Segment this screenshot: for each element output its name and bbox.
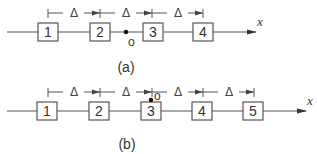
caption-b: (b) xyxy=(118,136,135,152)
element-number: 1 xyxy=(44,24,52,40)
element-box: 4 xyxy=(193,23,213,41)
spacing-label: Δ xyxy=(174,6,183,20)
element-number: 3 xyxy=(149,24,157,40)
spacing-label: Δ xyxy=(70,85,79,99)
element-number: 2 xyxy=(96,24,104,40)
spacing-label: Δ xyxy=(70,6,79,20)
origin-dot xyxy=(149,98,154,103)
caption-a: (a) xyxy=(117,59,134,75)
element-box: 5 xyxy=(243,102,263,120)
element-box: 1 xyxy=(38,23,58,41)
spacing-label: Δ xyxy=(122,85,131,99)
element-number: 2 xyxy=(95,103,103,119)
element-box: 3 xyxy=(143,23,163,41)
diagram-b: Δ Δ Δ Δ x 1 2 3 4 5 o (b) xyxy=(7,85,313,152)
element-number: 4 xyxy=(198,103,206,119)
spacing-label: Δ xyxy=(225,85,234,99)
element-number: 1 xyxy=(43,103,51,119)
spacing-dimension-a: Δ Δ Δ xyxy=(48,6,203,20)
element-box: 1 xyxy=(37,102,57,120)
element-box: 3 xyxy=(141,102,161,120)
spacing-label: Δ xyxy=(174,85,183,99)
origin-label: o xyxy=(154,89,161,103)
element-box: 4 xyxy=(192,102,212,120)
element-number: 5 xyxy=(249,103,257,119)
origin-dot xyxy=(124,30,129,35)
element-box: 2 xyxy=(89,102,109,120)
origin-label: o xyxy=(128,35,135,49)
element-number: 4 xyxy=(199,24,207,40)
diagram-canvas: Δ Δ Δ x 1 2 3 4 o (a) xyxy=(0,0,317,154)
element-box: 2 xyxy=(90,23,110,41)
spacing-label: Δ xyxy=(122,6,131,20)
diagram-a: Δ Δ Δ x 1 2 3 4 o (a) xyxy=(7,6,263,75)
element-number: 3 xyxy=(147,103,155,119)
spacing-dimension-b: Δ Δ Δ Δ xyxy=(48,85,254,99)
x-axis-label: x xyxy=(306,93,313,108)
x-axis-label: x xyxy=(256,14,263,29)
